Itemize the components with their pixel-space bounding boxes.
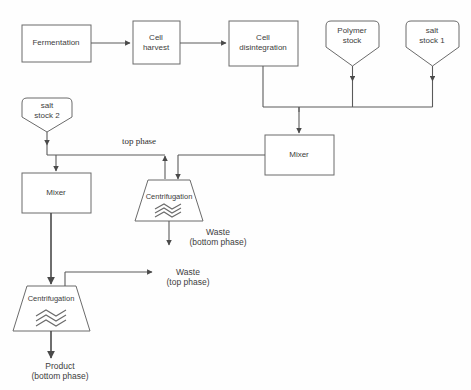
node-cell-disintegration-label: Cell disintegration [239,33,287,53]
output-waste-top-phase-label: Waste (top phase) [167,267,210,287]
node-polymer-stock-label: Polymer stock [337,26,366,46]
node-mixer-left-label: Mixer [46,188,66,198]
node-centrifugation-bottom-shape[interactable] [13,286,90,331]
node-mixer-right-label: Mixer [289,150,309,160]
node-cell-harvest-label: Cell harvest [143,33,169,53]
node-salt-stock-1-label: salt stock 1 [419,26,444,46]
node-salt-stock-2-label: salt stock 2 [34,101,59,121]
edge-label-top-phase: top phase [122,136,156,146]
output-product-bottom-phase-label: Product (bottom phase) [31,361,88,381]
node-centrifugation-top-label: Centrifugation [146,192,193,202]
flowchart-canvas [0,0,471,390]
node-fermentation-label: Fermentation [32,38,79,48]
node-centrifugation-bottom-label: Centrifugation [28,294,75,304]
output-waste-bottom-phase-label: Waste (bottom phase) [189,227,246,247]
process-flow-diagram: Fermentation Cell harvest Cell disintegr… [0,0,471,390]
